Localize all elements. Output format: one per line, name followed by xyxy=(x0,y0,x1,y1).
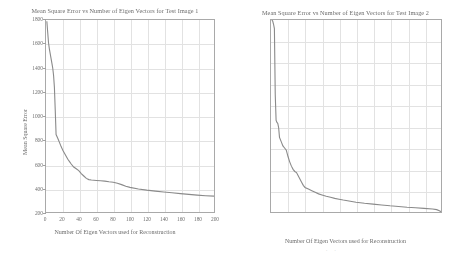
chart-title-right: Mean Square Error vs Number of Eigen Vec… xyxy=(230,9,461,16)
x-axis-tick-label: 160 xyxy=(177,216,185,222)
x-axis-tick-label: 40 xyxy=(76,216,81,222)
x-axis-tick-label: 20 xyxy=(59,216,64,222)
mse-curve-right xyxy=(271,20,441,212)
y-axis-tick-mark xyxy=(43,116,46,117)
figure-test-image-1: Mean Square Error vs Number of Eigen Vec… xyxy=(0,0,230,254)
y-axis-tick-mark xyxy=(43,43,46,44)
x-axis-tick-label: 200 xyxy=(211,216,219,222)
x-axis-tick-label: 180 xyxy=(194,216,202,222)
y-axis-tick-label: 400 xyxy=(35,186,43,192)
y-axis-tick-mark xyxy=(43,165,46,166)
x-axis-tick-label: 60 xyxy=(93,216,98,222)
y-axis-tick-label: 1000 xyxy=(32,113,43,119)
y-axis-tick-mark xyxy=(43,140,46,141)
x-axis-label-right: Number Of Eigen Vectors used for Reconst… xyxy=(230,238,461,244)
x-axis-tick-label: 80 xyxy=(110,216,115,222)
y-axis-tick-label: 800 xyxy=(35,137,43,143)
y-axis-tick-label: 600 xyxy=(35,162,43,168)
y-axis-tick-mark xyxy=(43,92,46,93)
x-axis-tick-label: 100 xyxy=(126,216,134,222)
y-axis-tick-label: 1800 xyxy=(32,16,43,22)
y-axis-tick-label: 1400 xyxy=(32,65,43,71)
chart-title-left: Mean Square Error vs Number of Eigen Vec… xyxy=(0,7,230,14)
plot-area-left xyxy=(45,19,215,213)
x-axis-tick-label: 120 xyxy=(143,216,151,222)
stray-marks: . . xyxy=(326,247,339,252)
y-axis-tick-label: 1600 xyxy=(32,40,43,46)
mse-curve-left xyxy=(46,20,214,212)
x-axis-label-left: Number Of Eigen Vectors used for Reconst… xyxy=(0,229,230,235)
x-axis-tick-label: 0 xyxy=(44,216,47,222)
y-axis-tick-label: 200 xyxy=(35,210,43,216)
y-axis-tick-mark xyxy=(43,189,46,190)
y-axis-tick-mark xyxy=(43,19,46,20)
figure-test-image-2: Mean Square Error vs Number of Eigen Vec… xyxy=(230,0,461,254)
y-axis-label-left: Mean Square Error xyxy=(22,109,28,155)
y-axis-tick-mark xyxy=(43,213,46,214)
x-axis-ticks-left: 020406080100120140160180200 xyxy=(45,215,215,225)
x-axis-tick-label: 140 xyxy=(160,216,168,222)
y-axis-tick-label: 1200 xyxy=(32,89,43,95)
y-axis-tick-mark xyxy=(43,68,46,69)
plot-area-right xyxy=(270,19,442,213)
